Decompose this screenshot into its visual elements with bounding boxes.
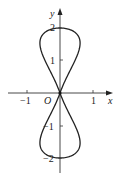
origin-point (58, 91, 61, 94)
x-axis-label: x (107, 95, 113, 106)
x-tick-label-neg1: −1 (20, 95, 31, 106)
y-tick-label-neg1: −1 (43, 121, 54, 132)
y-tick-label-2: 2 (50, 22, 55, 33)
y-tick-label-1: 1 (50, 55, 55, 66)
x-tick-label-1: 1 (91, 95, 96, 106)
y-tick-label-neg2: −2 (43, 153, 54, 164)
figure-eight-plot: x y O −1 1 2 1 −1 −2 (0, 0, 120, 178)
origin-label: O (44, 95, 51, 106)
y-axis-arrow-icon (58, 8, 63, 15)
y-axis-label: y (49, 8, 55, 19)
